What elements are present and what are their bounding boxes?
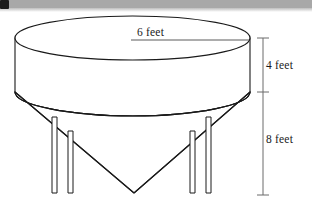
support-leg-2 (68, 131, 73, 193)
cylinder-height-label: 4 feet (266, 59, 293, 71)
support-leg-4 (206, 117, 211, 193)
cylinder-top-ellipse (15, 16, 250, 60)
cone-height-label: 8 feet (266, 133, 293, 145)
support-leg-1 (52, 117, 57, 193)
figure-canvas: 6 feet 4 feet 8 feet (0, 0, 312, 208)
diameter-label: 6 feet (137, 26, 164, 38)
support-leg-3 (190, 131, 195, 193)
